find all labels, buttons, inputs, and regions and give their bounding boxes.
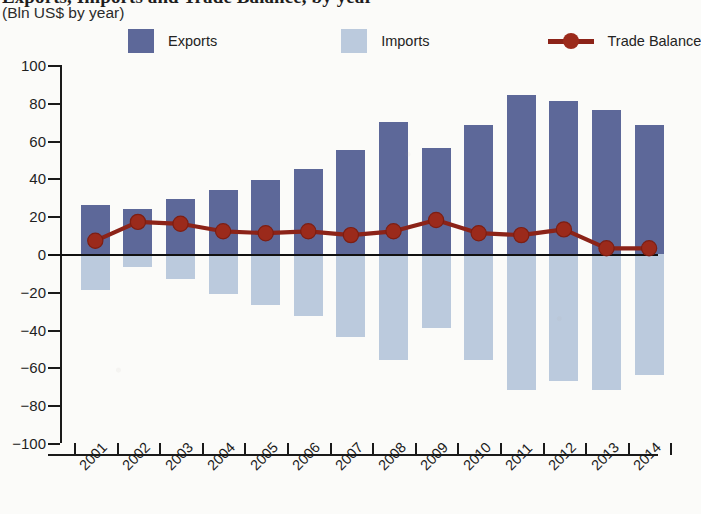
y-axis-tick-mark: [48, 405, 60, 407]
trade-balance-point: [556, 222, 571, 237]
y-axis-labels: 100806040200−20−40−60−80−100: [0, 0, 46, 514]
y-axis-tick-label: 80: [0, 94, 46, 111]
y-axis-tick-label: −40: [0, 321, 46, 338]
trade-balance-point: [642, 241, 657, 256]
trade-balance-point: [216, 224, 231, 239]
y-axis-tick-label: 40: [0, 170, 46, 187]
x-axis-tick-mark: [670, 443, 672, 455]
y-axis-tick-label: −100: [0, 435, 46, 452]
y-axis-tick-mark: [48, 178, 60, 180]
y-axis-tick-mark: [48, 65, 60, 67]
plot-area: 2001200220032004200520062007200820092010…: [60, 0, 658, 514]
y-axis-tick-label: 20: [0, 208, 46, 225]
trade-balance-point: [514, 228, 529, 243]
y-axis-tick-label: 100: [0, 57, 46, 74]
y-axis-tick-label: −60: [0, 359, 46, 376]
y-axis-tick-label: −20: [0, 283, 46, 300]
y-axis-tick-mark: [48, 443, 60, 445]
trade-balance-point: [258, 226, 273, 241]
y-axis-tick-label: 0: [0, 246, 46, 263]
y-axis-tick-mark: [48, 216, 60, 218]
trade-balance-point: [173, 216, 188, 231]
y-axis-tick-mark: [48, 292, 60, 294]
y-axis-tick-label: −80: [0, 397, 46, 414]
trade-balance-point: [88, 233, 103, 248]
y-axis-tick-mark: [48, 330, 60, 332]
trade-balance-line-series: [60, 0, 658, 514]
trade-balance-point: [301, 224, 316, 239]
y-axis-tick-mark: [48, 103, 60, 105]
y-axis-tick-mark: [48, 367, 60, 369]
trade-balance-point: [429, 212, 444, 227]
trade-balance-point: [386, 224, 401, 239]
trade-balance-point: [471, 226, 486, 241]
y-axis-tick-mark: [48, 141, 60, 143]
trade-balance-point: [599, 241, 614, 256]
y-axis-tick-label: 60: [0, 132, 46, 149]
trade-balance-point: [343, 228, 358, 243]
trade-balance-point: [130, 214, 145, 229]
